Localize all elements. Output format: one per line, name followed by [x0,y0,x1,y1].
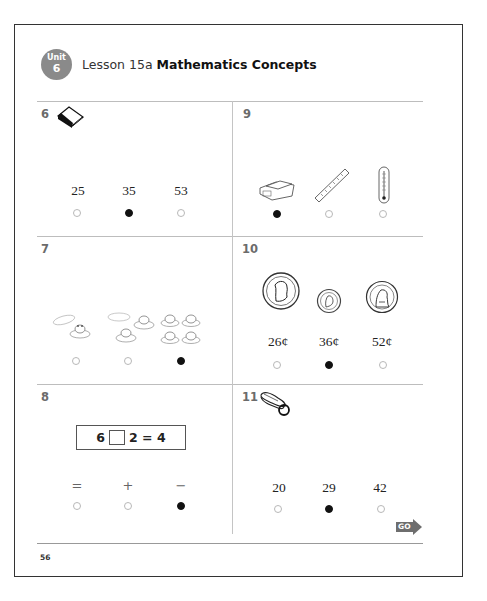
q9-choice-c-bubble[interactable] [379,210,387,218]
q6-choice-b-label: 35 [109,183,149,199]
q10-choice-b-label: 36¢ [309,334,349,350]
quarter-coin-icon [261,271,301,311]
unit-label: Unit [41,54,72,62]
q10-choice-c-bubble[interactable] [379,361,387,369]
q8-choice-a-label: = [67,478,87,493]
q7-choice-b-bubble[interactable] [124,357,132,365]
frog-group-3-image [160,313,202,345]
question-number-10: 10 [242,242,258,256]
q11-choice-a-bubble[interactable] [274,505,282,513]
q6-choice-a-bubble[interactable] [73,209,81,217]
q11-choice-b-bubble[interactable] [325,505,333,513]
q9-choice-a-bubble[interactable] [273,210,281,218]
equation-box: 6 2 = 4 [76,425,186,450]
q10-choice-a-bubble[interactable] [273,361,281,369]
go-arrow-icon: GO [396,519,422,535]
stapler-icon [258,389,292,417]
q11-choice-c-label: 42 [360,480,400,496]
divider-top [37,101,423,102]
divider-row-2 [37,384,423,385]
book-icon [55,104,87,128]
q8-choice-c-bubble[interactable] [177,502,185,510]
q9-choice-b-bubble[interactable] [325,210,333,218]
page-number: 56 [40,553,50,562]
q6-choice-c-bubble[interactable] [177,209,185,217]
q8-choice-a-bubble[interactable] [73,502,81,510]
lesson-label: Lesson 15a [82,57,153,72]
q8-choice-c-label: − [171,478,191,493]
q10-choice-a-label: 26¢ [258,334,298,350]
q11-choice-a-label: 20 [259,480,299,496]
q6-choice-c-label: 53 [161,183,201,199]
equation-left: 6 [96,430,105,445]
frog-group-2-image [106,312,158,344]
unit-badge: Unit 6 [41,49,72,80]
lesson-subject: Mathematics Concepts [157,57,317,72]
frog-group-1-image [52,312,100,342]
question-number-11: 11 [242,390,258,404]
penny-coin-icon [365,280,399,314]
question-number-8: 8 [41,390,49,404]
divider-vertical [232,101,233,534]
equation-right: 2 = 4 [129,430,166,445]
q7-choice-a-bubble[interactable] [72,357,80,365]
page-title: Lesson 15a Mathematics Concepts [82,57,317,72]
question-number-7: 7 [41,242,49,256]
q11-choice-b-label: 29 [309,480,349,496]
dime-coin-icon [316,288,342,314]
q10-choice-c-label: 52¢ [362,334,402,350]
equation-blank [109,430,125,445]
q8-choice-b-label: + [118,478,138,493]
scale-icon [258,178,298,202]
q6-choice-a-label: 25 [58,183,98,199]
divider-bottom [37,543,423,544]
go-label: GO [398,522,411,532]
q8-choice-b-bubble[interactable] [124,502,132,510]
thermometer-icon [378,166,390,204]
unit-number: 6 [41,63,72,74]
q6-choice-b-bubble[interactable] [125,209,133,217]
q10-choice-b-bubble[interactable] [325,361,333,369]
q7-choice-c-bubble[interactable] [177,357,185,365]
q11-choice-c-bubble[interactable] [377,505,385,513]
question-number-9: 9 [243,107,251,121]
ruler-icon [313,166,351,204]
divider-row-1 [37,236,423,237]
question-number-6: 6 [41,107,49,121]
